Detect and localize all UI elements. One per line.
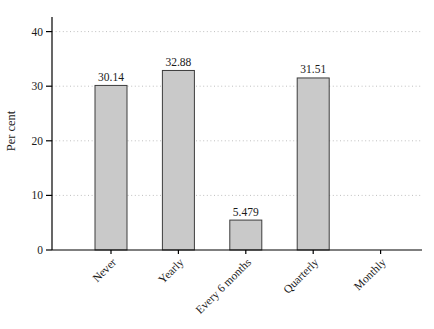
x-tick-label-yearly: Yearly (156, 256, 187, 287)
x-tick-label-quarterly: Quarterly (281, 256, 322, 297)
bar-never (95, 85, 127, 250)
bar-yearly (162, 70, 194, 250)
y-tick-label: 30 (32, 80, 44, 92)
x-tick-label-every-6-months: Every 6 months (193, 256, 254, 317)
bar-value-label: 32.88 (165, 56, 191, 68)
y-tick-label: 10 (32, 189, 44, 201)
bar-quarterly (297, 78, 329, 250)
bar-chart-svg: 30.1432.885.47931.51010203040NeverYearly… (0, 0, 434, 329)
bar-value-label: 30.14 (98, 71, 124, 83)
y-tick-label: 20 (32, 135, 44, 147)
x-tick-label-monthly: Monthly (352, 256, 389, 293)
bar-every-6-months (230, 220, 262, 250)
y-tick-label: 0 (37, 244, 43, 256)
y-axis-title: Per cent (3, 81, 19, 181)
bar-chart-figure: Per cent 30.1432.885.47931.51010203040Ne… (0, 0, 434, 329)
x-tick-label-never: Never (90, 256, 118, 284)
bar-value-label: 31.51 (300, 63, 326, 75)
y-tick-label: 40 (32, 26, 44, 38)
bar-value-label: 5.479 (233, 206, 259, 218)
